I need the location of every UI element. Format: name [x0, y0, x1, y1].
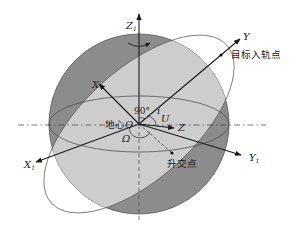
orbital-frame-diagram: Z1 Y 目标入轨点 X 90° i U 地心O Z Ω X1 Y1 升交点 [0, 0, 297, 232]
target-entry-point-label: 目标入轨点 [231, 49, 281, 60]
raan-label: Ω [121, 133, 130, 144]
inclination-label: i [157, 105, 160, 116]
target-entry-point-dot [219, 53, 222, 56]
angle-90-label: 90° [134, 106, 150, 116]
ascending-node-label: 升交点 [167, 158, 197, 169]
x1-label: X1 [23, 159, 35, 171]
z-label: Z [177, 122, 186, 133]
arg-latitude-label: U [161, 113, 170, 124]
z1-label: Z1 [125, 20, 137, 32]
earth-center-label: 地心O [105, 119, 133, 130]
y-label: Y [243, 31, 251, 42]
ascending-node-dot [170, 151, 173, 154]
y1-label: Y1 [249, 152, 259, 164]
x-label: X [91, 79, 100, 90]
